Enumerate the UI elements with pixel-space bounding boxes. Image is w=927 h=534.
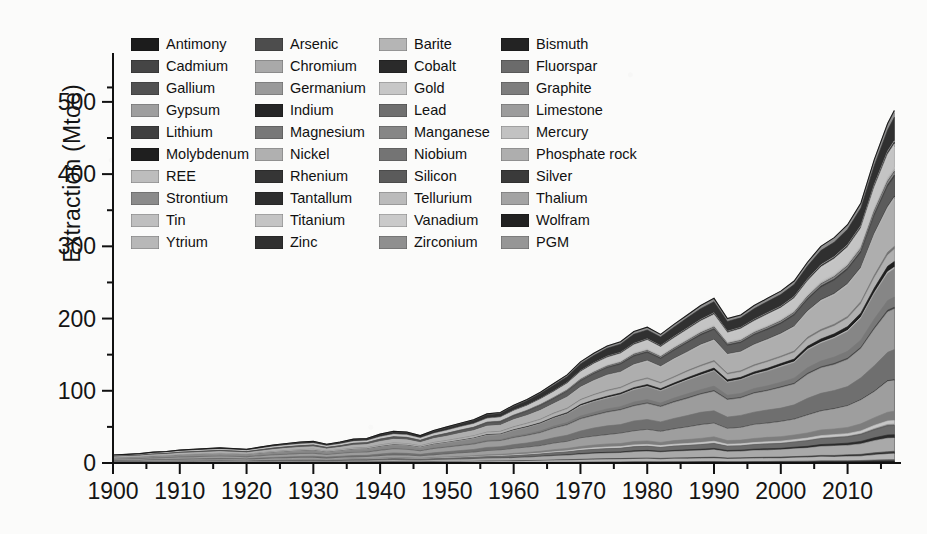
x-tick-label: 1960	[488, 478, 539, 504]
legend-label: Gallium	[166, 81, 215, 96]
legend-label: Limestone	[536, 103, 603, 118]
legend-item: Wolfram	[501, 209, 641, 231]
legend-label: Graphite	[536, 81, 592, 96]
legend-swatch	[255, 192, 283, 205]
legend-label: Tantallum	[290, 191, 352, 206]
legend-swatch	[131, 192, 159, 205]
legend-label: Phosphate rock	[536, 147, 637, 162]
legend-item: Lead	[379, 99, 501, 121]
y-tick-label: 400	[58, 161, 96, 187]
legend-item: Strontium	[131, 187, 255, 209]
legend-item: Vanadium	[379, 209, 501, 231]
chart-legend: AntimonyArsenicBariteBismuthCadmiumChrom…	[131, 33, 641, 253]
legend-item: Silicon	[379, 165, 501, 187]
legend-swatch	[255, 214, 283, 227]
x-tick-label: 1990	[688, 478, 739, 504]
legend-swatch	[131, 38, 159, 51]
legend-item: Phosphate rock	[501, 143, 641, 165]
legend-label: Silver	[536, 169, 572, 184]
legend-swatch	[379, 82, 407, 95]
legend-swatch	[501, 148, 529, 161]
y-tick-label: 300	[58, 233, 96, 259]
legend-item: Barite	[379, 33, 501, 55]
legend-item: Gold	[379, 77, 501, 99]
legend-swatch	[501, 170, 529, 183]
legend-swatch	[255, 148, 283, 161]
legend-item: Germanium	[255, 77, 379, 99]
legend-item: Silver	[501, 165, 641, 187]
legend-item: Cadmium	[131, 55, 255, 77]
legend-swatch	[131, 60, 159, 73]
x-tick-label: 1940	[355, 478, 406, 504]
legend-swatch	[379, 192, 407, 205]
legend-label: Zinc	[290, 235, 317, 250]
legend-swatch	[501, 60, 529, 73]
legend-swatch	[379, 38, 407, 51]
legend-label: Fluorspar	[536, 59, 597, 74]
legend-swatch	[255, 82, 283, 95]
legend-item: Nickel	[255, 143, 379, 165]
x-tick-label: 1920	[221, 478, 272, 504]
x-tick-label: 2000	[755, 478, 806, 504]
legend-swatch	[255, 170, 283, 183]
legend-label: Silicon	[414, 169, 457, 184]
legend-label: REE	[166, 169, 196, 184]
y-tick-label: 200	[58, 306, 96, 332]
legend-item: Ytrium	[131, 231, 255, 253]
y-tick-label: 0	[83, 450, 96, 476]
legend-item: PGM	[501, 231, 641, 253]
x-tick-label: 1980	[622, 478, 673, 504]
legend-swatch	[379, 148, 407, 161]
legend-label: PGM	[536, 235, 569, 250]
legend-swatch	[501, 236, 529, 249]
legend-swatch	[501, 126, 529, 139]
legend-item: Thalium	[501, 187, 641, 209]
legend-item: Indium	[255, 99, 379, 121]
legend-label: Gold	[414, 81, 445, 96]
x-tick-label: 1970	[555, 478, 606, 504]
legend-label: Antimony	[166, 37, 226, 52]
legend-label: Niobium	[414, 147, 467, 162]
legend-label: Chromium	[290, 59, 357, 74]
legend-swatch	[501, 82, 529, 95]
x-tick-label: 1950	[421, 478, 472, 504]
legend-item: REE	[131, 165, 255, 187]
legend-swatch	[501, 192, 529, 205]
legend-item: Zinc	[255, 231, 379, 253]
legend-item: Magnesium	[255, 121, 379, 143]
legend-label: Cobalt	[414, 59, 456, 74]
legend-swatch	[379, 60, 407, 73]
legend-label: Wolfram	[536, 213, 590, 228]
legend-swatch	[255, 104, 283, 117]
legend-label: Molybdenum	[166, 147, 249, 162]
legend-item: Rhenium	[255, 165, 379, 187]
legend-swatch	[131, 126, 159, 139]
legend-swatch	[131, 148, 159, 161]
y-tick-label: 500	[58, 89, 96, 115]
legend-label: Thalium	[536, 191, 588, 206]
chart-figure: Extraction (Mtoe) 0100200300400500190019…	[0, 0, 927, 534]
legend-label: Zirconium	[414, 235, 478, 250]
x-tick-label: 1900	[87, 478, 138, 504]
legend-label: Barite	[414, 37, 452, 52]
legend-label: Indium	[290, 103, 334, 118]
legend-item: Manganese	[379, 121, 501, 143]
legend-label: Mercury	[536, 125, 588, 140]
legend-item: Limestone	[501, 99, 641, 121]
legend-item: Tin	[131, 209, 255, 231]
legend-swatch	[255, 38, 283, 51]
legend-item: Tantallum	[255, 187, 379, 209]
legend-item: Chromium	[255, 55, 379, 77]
legend-label: Bismuth	[536, 37, 588, 52]
legend-swatch	[255, 126, 283, 139]
legend-item: Arsenic	[255, 33, 379, 55]
legend-swatch	[379, 104, 407, 117]
x-tick-label: 2010	[822, 478, 873, 504]
legend-label: Magnesium	[290, 125, 365, 140]
legend-item: Zirconium	[379, 231, 501, 253]
x-tick-label: 1910	[154, 478, 205, 504]
legend-swatch	[255, 60, 283, 73]
legend-label: Titanium	[290, 213, 345, 228]
legend-swatch	[131, 82, 159, 95]
legend-item: Niobium	[379, 143, 501, 165]
